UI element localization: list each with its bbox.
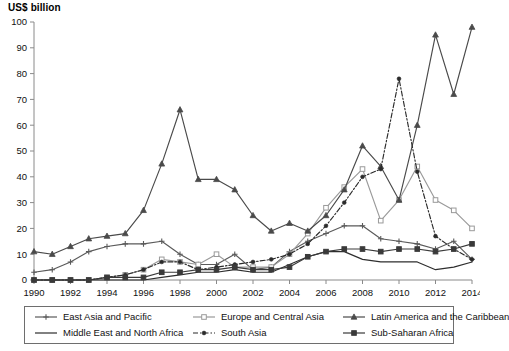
y-tick-label: 60 (16, 120, 27, 131)
data-point (414, 122, 420, 127)
data-point (287, 265, 292, 270)
data-point (342, 247, 347, 252)
legend-swatch-icon (33, 312, 59, 322)
x-tick-label: 1996 (133, 287, 154, 298)
data-point (159, 161, 165, 166)
data-point (122, 241, 128, 247)
x-tick-label: 2000 (206, 287, 227, 298)
series-europe-and-central-asia (32, 164, 475, 282)
data-point (105, 275, 110, 280)
legend-item-label: East Asia and Pacific (63, 312, 152, 322)
series-latin-america-and-the-caribbean (31, 24, 475, 256)
data-point (214, 267, 219, 272)
data-point (177, 107, 183, 112)
y-tick-label: 50 (16, 145, 27, 156)
legend-item-east-asia-and-pacific[interactable]: East Asia and Pacific (33, 312, 191, 322)
data-point (434, 234, 438, 238)
data-point (324, 205, 329, 210)
data-point (86, 278, 91, 283)
data-point (141, 207, 147, 212)
x-tick-label: 2012 (425, 287, 446, 298)
data-point (251, 267, 256, 272)
x-tick-label: 1992 (60, 287, 81, 298)
series-south-asia (32, 77, 474, 282)
legend-item-sub-saharan-africa[interactable]: Sub-Saharan Africa (341, 328, 509, 338)
data-point (305, 254, 310, 259)
series-layer (31, 24, 475, 282)
y-tick-label: 10 (16, 249, 27, 260)
data-point (178, 270, 183, 275)
data-point (269, 257, 273, 261)
data-point (141, 241, 147, 247)
data-point (214, 252, 219, 257)
x-tick-label: 2006 (315, 287, 336, 298)
data-point (68, 278, 73, 283)
data-point (451, 208, 456, 213)
data-point (159, 270, 164, 275)
data-point (49, 267, 55, 273)
data-point (202, 315, 207, 320)
data-point (470, 257, 474, 261)
y-axis-title: US$ billion (8, 2, 61, 13)
data-point (469, 24, 475, 29)
data-point (142, 268, 146, 272)
line-chart-svg: 0102030405060708090100 19901992199419961… (0, 14, 480, 299)
legend-swatch-icon (191, 328, 217, 338)
data-point (433, 249, 438, 254)
series-line (34, 27, 472, 254)
data-point (415, 170, 419, 174)
data-point (43, 314, 49, 320)
data-point (160, 260, 164, 264)
x-tick-label: 1998 (169, 287, 190, 298)
data-point (196, 267, 201, 272)
x-tick-label: 2014 (461, 287, 480, 298)
x-axis-ticks: 1990199219941996199820002002200420062008… (23, 280, 480, 298)
legend-item-south-asia[interactable]: South Asia (191, 328, 341, 338)
y-tick-label: 0 (22, 274, 27, 285)
data-point (378, 218, 383, 223)
data-point (141, 275, 146, 280)
x-tick-label: 2002 (242, 287, 263, 298)
data-point (269, 267, 274, 272)
data-point (396, 239, 402, 245)
data-point (232, 265, 237, 270)
y-axis-ticks: 0102030405060708090100 (11, 16, 34, 285)
data-point (470, 242, 475, 247)
data-point (178, 260, 182, 264)
y-tick-label: 90 (16, 42, 27, 53)
x-tick-label: 1994 (96, 287, 117, 298)
data-point (361, 175, 365, 179)
legend-item-label: Europe and Central Asia (221, 312, 324, 322)
data-point (123, 275, 128, 280)
chart-legend: East Asia and PacificEurope and Central … (24, 306, 454, 344)
data-point (397, 77, 401, 81)
data-point (360, 167, 365, 172)
legend-swatch-icon (341, 312, 367, 322)
y-tick-label: 40 (16, 171, 27, 182)
data-point (414, 241, 420, 247)
y-tick-label: 30 (16, 197, 27, 208)
legend-swatch-icon (33, 328, 59, 338)
data-point (360, 247, 365, 252)
legend-item-europe-and-central-asia[interactable]: Europe and Central Asia (191, 312, 341, 322)
y-tick-label: 100 (11, 16, 27, 27)
data-point (196, 262, 201, 267)
legend-swatch-icon (341, 328, 367, 338)
legend-item-label: South Asia (221, 328, 266, 338)
data-point (342, 201, 346, 205)
legend-item-latin-america-and-the-caribbean[interactable]: Latin America and the Caribbean (341, 312, 509, 322)
data-point (451, 91, 457, 96)
data-point (86, 249, 92, 255)
plot-area: 0102030405060708090100 19901992199419961… (0, 14, 480, 299)
data-point (68, 259, 74, 265)
data-point (251, 260, 255, 264)
legend-item-middle-east-and-north-africa[interactable]: Middle East and North Africa (33, 328, 191, 338)
data-point (50, 278, 55, 283)
data-point (360, 143, 366, 148)
data-point (378, 249, 383, 254)
x-tick-label: 1990 (23, 287, 44, 298)
data-point (324, 249, 329, 254)
data-point (352, 331, 357, 336)
data-point (104, 244, 110, 250)
